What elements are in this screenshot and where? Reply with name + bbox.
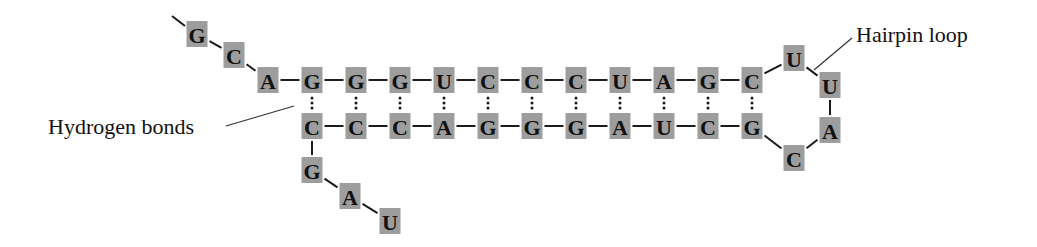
nucleotides: GCAGGGUCCCUAGCCCCAGGGAUCGUUACGAU [187, 21, 841, 235]
nucleotide-stem-top-11: C [742, 67, 763, 94]
nucleotide-loop-4: C [784, 145, 805, 172]
nucleotide-3prime-3: U [380, 208, 401, 235]
nucleotide-stem-bottom-6: G [522, 113, 543, 140]
hydrogen-bond-dot [619, 107, 622, 110]
nucleotide-letter: U [436, 69, 452, 94]
backbone-bond [325, 179, 338, 188]
hydrogen-bond-dot [487, 97, 490, 100]
nucleotide-letter: G [523, 115, 540, 140]
hydrogen-bond-dot [575, 107, 578, 110]
nucleotide-letter: G [303, 69, 320, 94]
hydrogen-bond-dot [487, 107, 490, 110]
hydrogen-bond-dot [751, 107, 754, 110]
nucleotide-stem-top-1: G [302, 67, 323, 94]
hydrogen-bond-dot [355, 97, 358, 100]
nucleotide-letter: C [524, 69, 540, 94]
nucleotide-letter: G [391, 69, 408, 94]
hydrogen-bond-dot [707, 102, 710, 105]
nucleotide-letter: C [480, 69, 496, 94]
nucleotide-letter: G [699, 69, 716, 94]
hydrogen-bond-dot [443, 107, 446, 110]
nucleotide-stem-bottom-7: G [566, 113, 587, 140]
nucleotide-loop-1: U [784, 45, 805, 72]
hydrogen-bond-dot [531, 97, 534, 100]
nucleotide-letter: C [392, 115, 408, 140]
nucleotide-stem-bottom-2: C [346, 113, 367, 140]
hydrogen-bond-dot [311, 107, 314, 110]
hydrogen-bond-dot [355, 107, 358, 110]
nucleotide-stem-bottom-1: C [302, 113, 323, 140]
hydrogen-bond-dot [619, 97, 622, 100]
hairpin-loop-leader-line [814, 38, 852, 70]
hydrogen-bond-dot [619, 102, 622, 105]
backbone-bond [765, 136, 782, 149]
nucleotide-letter: U [656, 115, 672, 140]
hydrogen-bond-dot [663, 107, 666, 110]
hairpin-loop-label: Hairpin loop [856, 22, 968, 47]
nucleotide-stem-top-5: C [478, 67, 499, 94]
nucleotide-letter: A [656, 69, 672, 94]
hydrogen-bond-dot [531, 102, 534, 105]
nucleotide-loop-2: U [820, 72, 841, 99]
backbone-bonds [172, 16, 830, 213]
hydrogen-bond-dot [575, 97, 578, 100]
nucleotide-3prime-2: A [340, 183, 361, 210]
hydrogen-bonds-label: Hydrogen bonds [48, 114, 194, 139]
nucleotide-stem-bottom-11: G [742, 113, 763, 140]
nucleotide-5prime-1: G [187, 21, 208, 48]
nucleotide-letter: C [304, 115, 320, 140]
five-prime-end-stub [172, 16, 185, 26]
backbone-bond [363, 204, 378, 213]
nucleotide-stem-bottom-4: A [434, 113, 455, 140]
hydrogen-bond-dot [663, 97, 666, 100]
nucleotide-stem-bottom-3: C [390, 113, 411, 140]
nucleotide-stem-bottom-9: U [654, 113, 675, 140]
hydrogen-bond-dot [399, 97, 402, 100]
hydrogen-bond-dot [531, 107, 534, 110]
nucleotide-stem-bottom-10: C [698, 113, 719, 140]
nucleotide-letter: U [822, 74, 838, 99]
nucleotide-letter: G [567, 115, 584, 140]
nucleotide-stem-top-10: G [698, 67, 719, 94]
hydrogen-bond-dot [663, 102, 666, 105]
nucleotide-letter: G [347, 69, 364, 94]
nucleotide-stem-top-6: C [522, 67, 543, 94]
nucleotide-letter: C [786, 147, 802, 172]
nucleotide-3prime-1: G [302, 157, 323, 184]
nucleotide-stem-bottom-5: G [478, 113, 499, 140]
hydrogen-bond-dot [311, 97, 314, 100]
nucleotide-letter: G [303, 159, 320, 184]
backbone-bond [807, 140, 818, 149]
nucleotide-letter: A [822, 119, 838, 144]
hydrogen-bond-dot [311, 102, 314, 105]
hydrogen-bond-dots [311, 97, 754, 110]
nucleotide-letter: C [744, 69, 760, 94]
nucleotide-letter: A [342, 185, 358, 210]
nucleotide-letter: C [568, 69, 584, 94]
nucleotide-letter: G [188, 23, 205, 48]
backbone-bond [247, 64, 256, 71]
nucleotide-letter: C [348, 115, 364, 140]
nucleotide-letter: A [260, 69, 276, 94]
nucleotide-stem-top-8: U [610, 67, 631, 94]
hydrogen-bond-dot [707, 97, 710, 100]
nucleotide-letter: U [786, 47, 802, 72]
nucleotide-letter: C [700, 115, 716, 140]
nucleotide-letter: C [226, 44, 242, 69]
nucleotide-loop-3: A [820, 117, 841, 144]
nucleotide-letter: U [612, 69, 628, 94]
nucleotide-5prime-2: C [224, 42, 245, 69]
nucleotide-letter: A [612, 115, 628, 140]
nucleotide-letter: A [436, 115, 452, 140]
nucleotide-stem-top-4: U [434, 67, 455, 94]
hydrogen-bond-dot [751, 97, 754, 100]
hydrogen-bonds-leader-line [226, 106, 294, 126]
backbone-bond [210, 41, 222, 48]
nucleotide-stem-top-3: G [390, 67, 411, 94]
nucleotide-stem-bottom-8: A [610, 113, 631, 140]
nucleotide-stem-top-7: C [566, 67, 587, 94]
nucleotide-stem-top-2: G [346, 67, 367, 94]
rna-hairpin-diagram: GCAGGGUCCCUAGCCCCAGGGAUCGUUACGAU Hairpin… [0, 0, 1037, 247]
hydrogen-bond-dot [751, 102, 754, 105]
nucleotide-letter: U [382, 210, 398, 235]
